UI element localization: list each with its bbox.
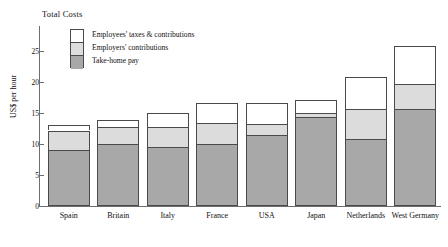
bar-segment-take	[196, 144, 238, 206]
bar-segment-empr	[246, 124, 288, 135]
bar-plot-area	[0, 0, 448, 247]
bar-segment-empr	[196, 123, 238, 143]
bar-segment-empl	[295, 100, 337, 112]
bar-segment-take	[147, 147, 189, 205]
bar-segment-empl	[97, 120, 139, 127]
bar-west-germany[interactable]	[394, 46, 436, 206]
x-tick-label-west-germany: West Germany	[380, 211, 448, 220]
bar-segment-take	[345, 139, 387, 205]
bar-france[interactable]	[196, 103, 238, 205]
bar-usa[interactable]	[246, 103, 288, 205]
bar-segment-empr	[147, 127, 189, 147]
bar-segment-take	[246, 135, 288, 206]
bar-segment-empl	[196, 103, 238, 123]
bar-segment-empr	[97, 127, 139, 144]
bar-segment-take	[97, 144, 139, 205]
bar-segment-empl	[394, 46, 436, 84]
bar-segment-empr	[394, 84, 436, 109]
bar-segment-empl	[345, 77, 387, 109]
bar-segment-take	[295, 117, 337, 205]
bar-spain[interactable]	[48, 125, 90, 206]
chart-container: Total Costs US$ per hour 0510152025 Empl…	[0, 0, 448, 247]
bar-segment-empr	[295, 113, 337, 118]
bar-netherlands[interactable]	[345, 77, 387, 205]
bar-segment-empl	[246, 103, 288, 123]
bar-segment-empl	[48, 125, 90, 131]
bar-britain[interactable]	[97, 120, 139, 206]
bar-segment-empl	[147, 113, 189, 127]
bar-segment-take	[48, 150, 90, 205]
bar-segment-empr	[345, 109, 387, 139]
bar-segment-take	[394, 109, 436, 206]
bar-japan[interactable]	[295, 100, 337, 205]
bar-segment-empr	[48, 131, 90, 151]
bar-italy[interactable]	[147, 113, 189, 206]
